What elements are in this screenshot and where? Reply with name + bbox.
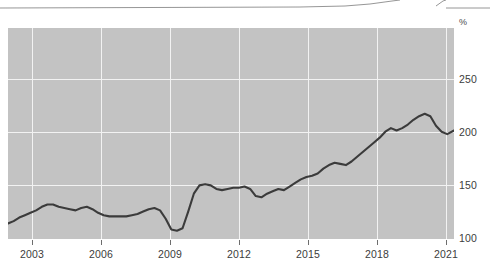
data-series-line	[8, 28, 454, 239]
x-axis-tick-2003: 2003	[20, 248, 44, 260]
y-axis-tick-100: 100	[459, 232, 477, 244]
y-axis-unit-label: %	[459, 17, 467, 27]
x-axis-tick-2018: 2018	[365, 248, 389, 260]
x-axis-tick-2006: 2006	[89, 248, 113, 260]
x-axis-tick-2009: 2009	[158, 248, 182, 260]
x-axis-tickmark-2018	[377, 240, 378, 245]
x-axis-tick-2012: 2012	[227, 248, 251, 260]
x-axis-tickmark-2012	[239, 240, 240, 245]
adjacent-chart-fragment-line	[0, 0, 490, 26]
y-axis-tick-200: 200	[459, 126, 477, 138]
x-axis-tickmark-2006	[101, 240, 102, 245]
y-axis-tick-250: 250	[459, 73, 477, 85]
x-axis-tickmark-2009	[170, 240, 171, 245]
x-axis-tickmark-2021	[446, 240, 447, 245]
x-axis-tick-2015: 2015	[296, 248, 320, 260]
line-chart: % 250 200 150 100 2003 2006 2009 2012 20…	[0, 0, 490, 265]
y-axis-tick-150: 150	[459, 179, 477, 191]
x-axis-tick-2021: 2021	[434, 248, 458, 260]
plot-area	[8, 28, 454, 239]
x-axis-tickmark-2015	[308, 240, 309, 245]
x-axis-tickmark-2003	[32, 240, 33, 245]
